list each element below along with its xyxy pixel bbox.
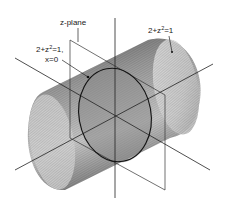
circle-equation-label: 2+z2=1, <box>36 44 64 54</box>
z-plane-label: z-plane <box>60 18 87 27</box>
circle-condition-label: x=0 <box>45 55 59 64</box>
cylinder-diagram: z-plane 2+z2=1, x=0 2+z2=1 <box>0 0 227 204</box>
cylinder-equation-label: 2+z2=1 <box>148 25 174 35</box>
